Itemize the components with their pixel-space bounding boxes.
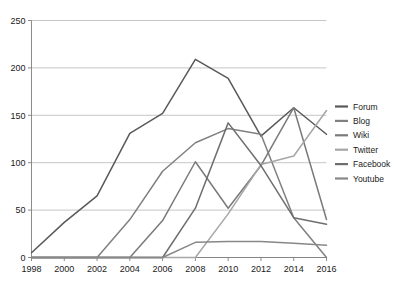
x-tick-label-2006: 2006	[153, 264, 173, 274]
x-tick-label-2014: 2014	[284, 264, 304, 274]
legend-label-twitter: Twitter	[353, 145, 378, 155]
y-tick-marks-group	[28, 21, 32, 258]
y-tick-label-200: 200	[10, 63, 25, 73]
gridlines-group	[32, 21, 327, 258]
x-tick-label-2000: 2000	[54, 264, 74, 274]
axes-group	[32, 21, 327, 258]
y-axis-tick-labels: 050100150200250	[10, 16, 25, 263]
y-tick-label-150: 150	[10, 111, 25, 121]
x-tick-label-1998: 1998	[21, 264, 41, 274]
series-line-wiki	[32, 108, 327, 258]
x-tick-label-2002: 2002	[87, 264, 107, 274]
chart-legend: ForumBlogWikiTwitterFacebookYoutube	[335, 102, 391, 184]
x-tick-label-2016: 2016	[316, 264, 336, 274]
series-line-blog	[32, 129, 327, 258]
line-chart-svg: 050100150200250 199820002002200420062008…	[0, 0, 407, 288]
y-tick-label-50: 50	[15, 205, 25, 215]
series-line-twitter	[32, 111, 327, 258]
legend-label-blog: Blog	[353, 116, 370, 126]
x-axis-tick-labels: 1998200020022004200620082010201220142016	[21, 264, 336, 274]
legend-label-facebook: Facebook	[353, 159, 391, 169]
series-line-youtube	[32, 241, 327, 257]
chart-container: 050100150200250 199820002002200420062008…	[0, 0, 407, 288]
legend-label-wiki: Wiki	[353, 130, 369, 140]
x-tick-label-2008: 2008	[185, 264, 205, 274]
x-tick-label-2012: 2012	[251, 264, 271, 274]
y-tick-label-100: 100	[10, 158, 25, 168]
y-tick-label-0: 0	[20, 253, 25, 263]
x-tick-label-2010: 2010	[218, 264, 238, 274]
series-lines-group	[32, 59, 327, 257]
x-tick-label-2004: 2004	[120, 264, 140, 274]
legend-label-youtube: Youtube	[353, 174, 384, 184]
legend-label-forum: Forum	[353, 102, 378, 112]
y-tick-label-250: 250	[10, 16, 25, 26]
plot-area: 050100150200250 199820002002200420062008…	[0, 0, 407, 288]
